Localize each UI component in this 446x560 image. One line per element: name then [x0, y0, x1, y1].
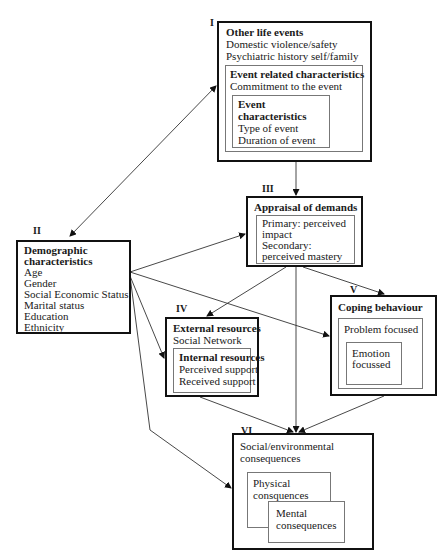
link-II-VI-b — [150, 430, 231, 488]
box-I-title: Other life events — [226, 26, 303, 38]
box-social-environmental-consequences: Social/environmental consequences Physic… — [232, 433, 374, 550]
link-II-III — [130, 234, 245, 272]
box-VI-mental-line: Mental — [276, 507, 307, 519]
box-demographic-characteristics: Demographic characteristics Age Gender S… — [16, 240, 131, 334]
box-I-inner-title: Event related characteristics — [230, 68, 364, 80]
box-other-life-events: Other life events Domestic violence/safe… — [217, 21, 372, 162]
box-VI-title-2: consequences — [240, 452, 300, 464]
link-V-VI — [299, 396, 384, 432]
box-appraisal-of-demands: Appraisal of demands Primary: perceived … — [246, 196, 363, 267]
box-V-innermost-line: focussed — [352, 358, 391, 370]
numeral-IV: IV — [176, 303, 187, 314]
box-coping-behaviour: Coping behaviour Problem focused Emotion… — [330, 295, 437, 396]
box-IV-line: Social Network — [173, 334, 242, 346]
box-IV-inner-line: Received support — [179, 375, 256, 387]
box-I-innermost-title-1: Event — [238, 98, 266, 110]
box-VI-mental-line: consequences — [276, 519, 336, 531]
box-I-innermost-line: Type of event — [238, 122, 298, 134]
box-V-title: Coping behaviour — [338, 301, 423, 313]
box-VI-title-1: Social/environmental — [240, 440, 334, 452]
box-event-related-characteristics: Event related characteristics Commitment… — [225, 65, 363, 152]
box-external-resources: External resources Social Network Intern… — [165, 317, 259, 397]
box-I-line: Psychiatric history self/family — [226, 50, 359, 62]
box-II-line: Ethnicity — [24, 321, 64, 333]
box-problem-focused: Problem focused Emotion focussed — [338, 318, 423, 389]
box-emotion-focussed: Emotion focussed — [346, 342, 402, 385]
box-I-line: Domestic violence/safety — [226, 38, 338, 50]
numeral-V: V — [350, 284, 357, 295]
box-III-title: Appraisal of demands — [254, 201, 357, 213]
box-III-inner: Primary: perceived impact Secondary: per… — [256, 215, 355, 264]
box-VI-physical-line: consquences — [253, 489, 309, 501]
box-IV-title: External resources — [173, 322, 261, 334]
box-IV-inner-line: Perceived support — [179, 363, 258, 375]
box-internal-resources: Internal resources Perceived support Rec… — [173, 348, 251, 393]
link-III-V — [303, 267, 384, 294]
box-IV-inner-title: Internal resources — [179, 351, 264, 363]
box-III-line: perceived mastery — [262, 250, 342, 262]
box-event-characteristics: Event characteristics Type of event Dura… — [232, 95, 330, 148]
box-V-inner-label: Problem focused — [344, 323, 418, 335]
numeral-II: II — [33, 225, 41, 236]
link-II-I — [70, 86, 216, 236]
box-I-inner-line: Commitment to the event — [230, 80, 342, 92]
link-III-IV — [207, 267, 286, 316]
box-I-innermost-line: Duration of event — [238, 134, 316, 146]
box-mental-consequences: Mental consequences — [268, 501, 345, 543]
numeral-I: I — [210, 17, 214, 28]
numeral-III: III — [262, 183, 274, 194]
box-I-innermost-title-2: characteristics — [238, 110, 306, 122]
box-VI-physical-line: Physical — [253, 477, 290, 489]
